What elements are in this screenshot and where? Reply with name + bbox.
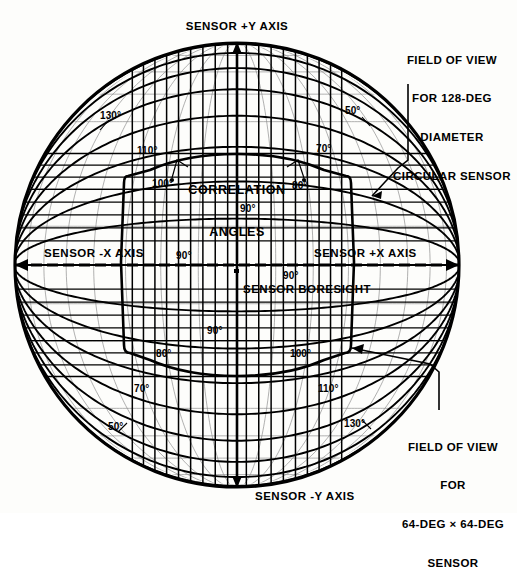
- angle-label-50-lower-left: 50°: [108, 421, 123, 432]
- callout-square-line2: FOR: [392, 479, 514, 492]
- callout-circular-line1: FIELD OF VIEW: [390, 54, 514, 67]
- label-sensor-minus-y-axis: SENSOR -Y AXIS: [255, 490, 355, 503]
- angle-label-100-upper-left: 100°: [152, 178, 173, 189]
- angle-label-80-lower-left: 80°: [156, 348, 171, 359]
- angle-label-90-center-upper: 90°: [240, 203, 256, 214]
- angle-label-110-upper-left: 110°: [137, 145, 158, 156]
- angle-label-90-axis-right: 90°: [283, 270, 299, 281]
- callout-circular-sensor: FIELD OF VIEW FOR 128-DEG DIAMETER CIRCU…: [390, 28, 514, 208]
- callout-square-line4: SENSOR: [392, 557, 514, 570]
- angle-label-70-upper-right: 70°: [316, 143, 331, 154]
- angle-label-130-upper-left: 130°: [100, 110, 121, 121]
- angle-label-50-upper-right: 50°: [345, 105, 360, 116]
- callout-square-line1: FIELD OF VIEW: [392, 441, 514, 454]
- label-sensor-plus-y-axis: SENSOR +Y AXIS: [186, 20, 289, 33]
- angle-label-110-lower-right: 110°: [318, 383, 339, 394]
- label-sensor-minus-x-axis: SENSOR -X AXIS: [44, 247, 144, 260]
- angle-label-100-lower-right: 100°: [290, 348, 311, 359]
- callout-correlation-line2: ANGLES: [162, 225, 312, 239]
- callout-circular-line3: DIAMETER: [390, 131, 514, 144]
- callout-square-line3: 64-DEG × 64-DEG: [392, 518, 514, 531]
- angle-label-130-lower-right: 130°: [344, 418, 365, 429]
- callout-correlation-line1: CORRELATION: [162, 183, 312, 197]
- callout-circular-line2: FOR 128-DEG: [390, 92, 514, 105]
- label-sensor-plus-x-axis: SENSOR +X AXIS: [314, 247, 417, 260]
- callout-square-sensor: FIELD OF VIEW FOR 64-DEG × 64-DEG SENSOR: [392, 415, 514, 571]
- label-sensor-boresight: SENSOR BORESIGHT: [243, 283, 371, 296]
- angle-label-90-axis-left: 90°: [176, 250, 192, 261]
- angle-label-90-center-lower: 90°: [207, 325, 223, 336]
- callout-circular-line4: CIRCULAR SENSOR: [390, 170, 514, 183]
- boresight-marker: [234, 269, 239, 273]
- angle-label-70-lower-left: 70°: [134, 383, 149, 394]
- angle-label-80-upper-right: 80°: [292, 180, 307, 191]
